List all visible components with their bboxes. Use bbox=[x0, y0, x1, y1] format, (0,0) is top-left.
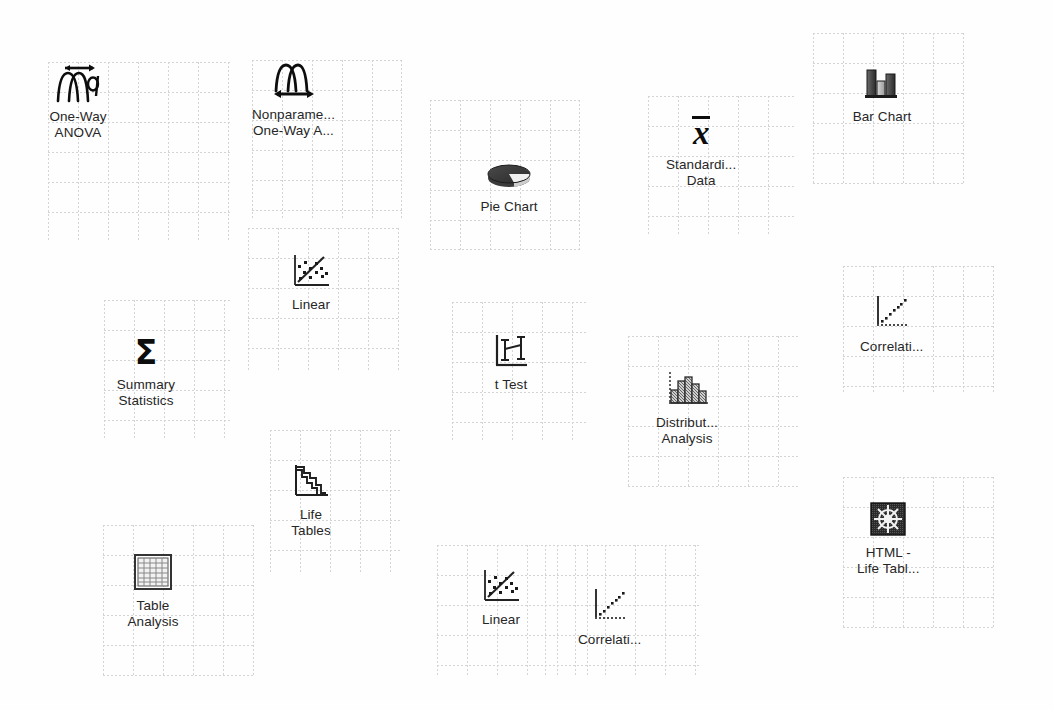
desktop-icon-standardize-data[interactable]: x Standardi...Data bbox=[666, 110, 736, 188]
desktop-icon-html-life-tables[interactable]: HTML -Life Tabl... bbox=[857, 498, 920, 576]
nonparametric-curves-arrow-icon bbox=[268, 61, 320, 103]
icon-label: Pie Chart bbox=[480, 199, 537, 215]
x-bar-icon[interactable]: x bbox=[671, 110, 731, 154]
icon-label-line2: One-Way A... bbox=[252, 123, 335, 139]
histogram-icon[interactable] bbox=[657, 368, 717, 412]
x-bar-icon: x bbox=[693, 114, 710, 151]
correlation-dotted-line-icon[interactable] bbox=[580, 585, 640, 629]
icon-label-line1: One-Way bbox=[49, 109, 106, 124]
desktop-icon-pie-chart[interactable]: Pie Chart bbox=[479, 152, 539, 215]
icon-label-line2: Tables bbox=[291, 523, 331, 539]
icon-label: SummaryStatistics bbox=[117, 377, 175, 408]
icon-label-line1: Life bbox=[300, 507, 322, 522]
desktop-canvas: One-WayANOVA Nonparame...One-Way A... bbox=[0, 0, 1053, 710]
icon-label-line1: Standardi... bbox=[666, 157, 736, 172]
icon-label-line2: Analysis bbox=[656, 431, 718, 447]
grid-table-icon[interactable] bbox=[123, 551, 183, 595]
ships-wheel-dark-square-icon bbox=[868, 500, 908, 540]
error-bars-axes-icon[interactable] bbox=[481, 330, 541, 374]
desktop-icon-nonparametric-one-way-anova[interactable]: Nonparame...One-Way A... bbox=[252, 60, 335, 138]
grid-table-icon bbox=[133, 553, 173, 593]
desktop-icon-one-way-anova[interactable]: One-WayANOVA bbox=[48, 62, 108, 140]
correlation-dotted-line-icon bbox=[589, 587, 631, 627]
icon-label-line2: Data bbox=[666, 173, 736, 189]
survival-step-curve-icon[interactable] bbox=[281, 460, 341, 504]
icon-label: Correlati... bbox=[578, 632, 641, 648]
correlation-dotted-line-icon bbox=[871, 294, 913, 334]
pie-3d-icon[interactable] bbox=[479, 152, 539, 196]
scatter-regression-line-icon[interactable] bbox=[281, 250, 341, 294]
icon-label: Nonparame...One-Way A... bbox=[252, 107, 335, 138]
scatter-regression-line-icon[interactable] bbox=[471, 565, 531, 609]
desktop-icon-correlations[interactable]: Correlati... bbox=[578, 585, 641, 648]
icon-label-line1: Linear bbox=[292, 297, 330, 312]
icon-label: TableAnalysis bbox=[127, 598, 178, 629]
bar-chart-icon bbox=[861, 64, 903, 104]
desktop-icon-linear-fit[interactable]: Linear bbox=[471, 565, 531, 628]
desktop-icon-life-tables[interactable]: LifeTables bbox=[281, 460, 341, 538]
desktop-icon-bar-chart[interactable]: Bar Chart bbox=[852, 62, 912, 125]
desktop-icon-summary-statistics[interactable]: ΣSummaryStatistics bbox=[116, 330, 176, 408]
icon-label: LifeTables bbox=[291, 507, 331, 538]
ships-wheel-dark-square-icon[interactable] bbox=[858, 498, 918, 542]
icon-label-line1: Correlati... bbox=[578, 632, 641, 647]
icon-label: HTML -Life Tabl... bbox=[857, 545, 920, 576]
icon-label-line1: Correlati... bbox=[860, 339, 923, 354]
desktop-icon-distribution-analysis[interactable]: Distribut...Analysis bbox=[656, 368, 718, 446]
histogram-icon bbox=[663, 370, 711, 410]
desktop-icon-correlations[interactable]: Correlati... bbox=[860, 292, 923, 355]
scatter-regression-line-icon bbox=[480, 567, 522, 607]
pie-3d-icon bbox=[483, 157, 535, 191]
nonparametric-curves-arrow-icon[interactable] bbox=[264, 60, 324, 104]
survival-step-curve-icon bbox=[290, 462, 332, 502]
icon-label-line1: HTML - bbox=[866, 545, 911, 560]
icon-label: Bar Chart bbox=[853, 109, 912, 125]
icon-label: Linear bbox=[292, 297, 330, 313]
error-bars-axes-icon bbox=[491, 332, 531, 372]
correlation-dotted-line-icon[interactable] bbox=[862, 292, 922, 336]
icon-label-line1: Summary bbox=[117, 377, 175, 392]
sigma-icon[interactable]: Σ bbox=[116, 330, 176, 374]
icon-label: Distribut...Analysis bbox=[656, 415, 718, 446]
icon-label-line1: Linear bbox=[482, 612, 520, 627]
icon-label-line1: Table bbox=[137, 598, 170, 613]
icon-label-line2: Analysis bbox=[127, 614, 178, 630]
sigma-icon: Σ bbox=[135, 336, 158, 369]
bar-chart-icon[interactable] bbox=[852, 62, 912, 106]
scatter-regression-line-icon bbox=[290, 252, 332, 292]
icon-label: Correlati... bbox=[860, 339, 923, 355]
icon-label-line2: Life Tabl... bbox=[857, 561, 920, 577]
icon-label-line1: Distribut... bbox=[656, 415, 718, 430]
icon-label-line1: Nonparame... bbox=[252, 107, 335, 122]
icon-label-line2: ANOVA bbox=[49, 125, 106, 141]
anova-curves-arrow-alpha-icon[interactable] bbox=[48, 62, 108, 106]
desktop-icon-linear-fit[interactable]: Linear bbox=[281, 250, 341, 313]
icon-label: Standardi...Data bbox=[666, 157, 736, 188]
icon-label: Linear bbox=[482, 612, 520, 628]
desktop-icon-t-test[interactable]: t Test bbox=[481, 330, 541, 393]
icon-label-line2: Statistics bbox=[117, 393, 175, 409]
icon-label: t Test bbox=[495, 377, 528, 393]
icon-label-line1: t Test bbox=[495, 377, 528, 392]
icon-label-line1: Bar Chart bbox=[853, 109, 912, 124]
icon-label: One-WayANOVA bbox=[49, 109, 106, 140]
icon-label-line1: Pie Chart bbox=[480, 199, 537, 214]
desktop-icon-table-analysis[interactable]: TableAnalysis bbox=[123, 551, 183, 629]
anova-curves-arrow-alpha-icon bbox=[52, 63, 104, 105]
